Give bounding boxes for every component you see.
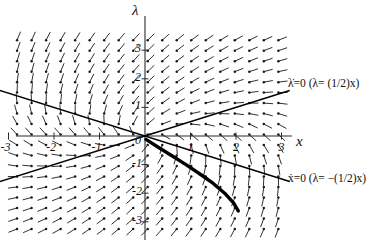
x-tick-label--1: -1 bbox=[92, 140, 102, 155]
y-tick-label-1: 1 bbox=[135, 98, 141, 113]
x-tick-label-2: 2 bbox=[233, 140, 239, 155]
x-tick-label-3: 3 bbox=[279, 140, 285, 155]
y-axis-label: λ bbox=[132, 2, 139, 19]
lambda-dot-nullcline-label: λ̇=0 (λ= (1/2)x) bbox=[288, 77, 359, 89]
x-tick-label-1: 1 bbox=[188, 140, 194, 155]
y-tick-label--2: -2 bbox=[132, 184, 142, 199]
x-axis-label: x bbox=[296, 133, 303, 150]
y-tick-label-3: 3 bbox=[135, 41, 141, 56]
y-tick-label-2: 2 bbox=[135, 70, 141, 85]
x-tick-label-0: 0 bbox=[135, 133, 141, 148]
y-tick-label--3: -3 bbox=[132, 213, 142, 228]
x-dot-nullcline-label: ẋ=0 (λ= −(1/2)x) bbox=[288, 172, 366, 184]
phase-portrait-figure: λ x λ̇=0 (λ= (1/2)x) ẋ=0 (λ= −(1/2)x) -3… bbox=[0, 0, 392, 247]
x-tick-label--3: -3 bbox=[1, 140, 11, 155]
x-tick-label--2: -2 bbox=[46, 140, 56, 155]
phase-portrait-svg bbox=[0, 0, 392, 247]
y-tick-label--1: -1 bbox=[132, 156, 142, 171]
